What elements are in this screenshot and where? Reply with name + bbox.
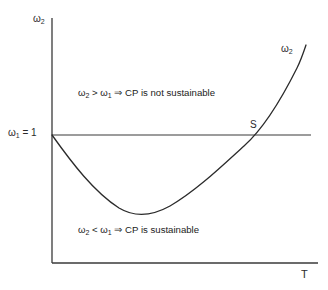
curve-series-symbol: ω [281,43,289,54]
annotation-lower-lhs-symbol: ω [78,224,86,235]
annotation-lower-operator: < [89,224,100,235]
y-axis-title-symbol: ω [33,13,41,24]
intersection-point-label: S [250,120,257,130]
annotation-sustainable: ω2 < ω1 ⇒ CP is sustainable [78,225,199,236]
reference-level-value: = 1 [20,127,37,138]
reference-level-label: ω1 = 1 [8,128,37,139]
annotation-lower-rhs-symbol: ω [100,224,108,235]
annotation-upper-tail: ⇒ CP is not sustainable [112,87,215,98]
annotation-upper-lhs-symbol: ω [78,87,86,98]
y-axis-title: ω2 [33,14,45,25]
x-axis-title: T [301,269,308,280]
chart-figure: ω2 T ω1 = 1 ω2 S ω2 > ω1 ⇒ CP is not sus… [0,0,328,290]
y-axis-title-subscript: 2 [41,18,45,25]
annotation-not-sustainable: ω2 > ω1 ⇒ CP is not sustainable [78,88,215,99]
curve-series-label: ω2 [281,44,293,55]
reference-level-symbol: ω [8,127,16,138]
curve-series-subscript: 2 [289,48,293,55]
chart-plot-area [0,0,328,290]
annotation-upper-operator: > [89,87,100,98]
annotation-upper-rhs-symbol: ω [100,87,108,98]
annotation-lower-tail: ⇒ CP is sustainable [112,224,199,235]
curve-omega2 [52,45,306,214]
